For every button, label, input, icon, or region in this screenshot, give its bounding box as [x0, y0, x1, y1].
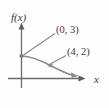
x-axis-label: x [93, 73, 99, 85]
y-intercept-point-marker [20, 54, 24, 58]
point-label-0-3: (0, 3) [56, 24, 79, 36]
graph-canvas: f(x) x (0, 3) (4, 2) [0, 0, 109, 108]
function-graph-figure: f(x) x (0, 3) (4, 2) [0, 0, 109, 108]
point-label-4-2: (4, 2) [67, 46, 90, 58]
y-axis-label: f(x) [11, 11, 27, 24]
